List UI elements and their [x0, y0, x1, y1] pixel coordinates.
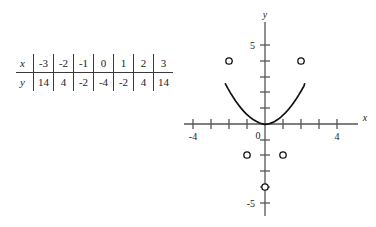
point-marker [226, 58, 232, 64]
y-tick-label-negative: -5 [247, 198, 255, 209]
table-cell-y: 4 [54, 73, 74, 92]
point-marker [298, 58, 304, 64]
x-tick-label-origin: 0 [256, 130, 261, 141]
table-cell-y: -2 [74, 73, 94, 92]
x-tick-label-positive: 4 [335, 131, 340, 142]
table-cell-y: -4 [94, 73, 114, 92]
table-cell-x: 1 [114, 54, 134, 73]
point-marker [262, 184, 268, 190]
table-row-label-x: x [16, 54, 34, 73]
table-cell-x: 0 [94, 54, 114, 73]
table-cell-x: -3 [34, 54, 54, 73]
table-cell-x: -2 [54, 54, 74, 73]
table-row-label-y: y [16, 73, 34, 92]
y-axis-label: y [262, 9, 268, 20]
table-cell-x: 3 [154, 54, 174, 73]
table-row-y: y 14 4 -2 -4 -2 4 14 [16, 73, 173, 92]
y-tick-label-positive: 5 [250, 40, 255, 51]
table-cell-y: 14 [154, 73, 174, 92]
value-table: x -3 -2 -1 0 1 2 3 y 14 4 -2 -4 -2 4 14 [16, 54, 173, 91]
table-cell-x: 2 [134, 54, 154, 73]
table-cell-y: -2 [114, 73, 134, 92]
table-cell-y: 14 [34, 73, 54, 92]
point-marker [280, 152, 286, 158]
table-cell-x: -1 [74, 54, 94, 73]
point-marker [244, 152, 250, 158]
table-row-x: x -3 -2 -1 0 1 2 3 [16, 54, 173, 73]
math-figure: x -3 -2 -1 0 1 2 3 y 14 4 -2 -4 -2 4 14 [0, 0, 376, 227]
x-tick-label-negative: -4 [189, 131, 197, 142]
parabola-graph: y x -4 0 4 5 -5 [182, 0, 376, 227]
x-axis-label: x [362, 112, 368, 123]
table-cell-y: 4 [134, 73, 154, 92]
